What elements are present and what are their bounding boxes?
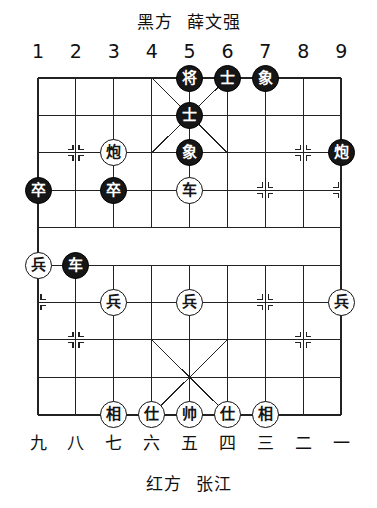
file-label-cn-七: 七 [101,432,127,454]
piece-red-advisor[interactable]: 仕 [214,401,241,428]
piece-red-pawn[interactable]: 兵 [100,289,127,316]
file-label-cn-四: 四 [215,432,241,454]
file-label-cn-六: 六 [139,432,165,454]
file-label-cn-五: 五 [177,432,203,454]
file-label-cn-一: 一 [328,432,354,454]
piece-black-pawn[interactable]: 卒 [100,177,127,204]
red-side-header: 红方张江 [0,470,377,495]
xiangqi-board-page: 黑方薛文强 123456789 将士象士炮象炮卒卒车兵车兵兵兵相仕帅仕相 九八七… [0,0,377,508]
file-label-cn-二: 二 [290,432,316,454]
red-player-name: 张江 [196,474,232,494]
piece-red-chariot[interactable]: 车 [176,177,203,204]
piece-black-chariot[interactable]: 车 [62,252,89,279]
piece-black-cannon[interactable]: 炮 [328,139,355,166]
piece-black-pawn[interactable]: 卒 [25,177,52,204]
piece-black-advisor[interactable]: 士 [214,65,241,92]
piece-red-pawn[interactable]: 兵 [176,289,203,316]
piece-red-general[interactable]: 帅 [176,401,203,428]
piece-red-elephant[interactable]: 相 [252,401,279,428]
piece-red-pawn[interactable]: 兵 [25,252,52,279]
file-labels-bottom: 九八七六五四三二一 [0,432,377,454]
piece-black-general[interactable]: 将 [176,65,203,92]
file-label-cn-八: 八 [63,432,89,454]
file-label-cn-九: 九 [25,432,51,454]
piece-red-pawn[interactable]: 兵 [328,289,355,316]
file-label-cn-三: 三 [252,432,278,454]
piece-black-elephant[interactable]: 象 [252,65,279,92]
red-side-label: 红方 [146,474,182,494]
piece-black-advisor[interactable]: 士 [176,102,203,129]
